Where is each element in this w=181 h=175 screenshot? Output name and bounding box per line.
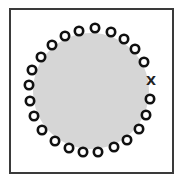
bead-icon (61, 32, 69, 40)
bead-icon (110, 143, 118, 151)
bead-icon (135, 125, 143, 133)
bead-icon (107, 28, 115, 36)
bead-icon (123, 136, 131, 144)
bead-icon (37, 53, 45, 61)
bead-icon (26, 97, 34, 105)
bead-icon (131, 45, 139, 53)
bead-icon (94, 148, 102, 156)
bead-icon (65, 144, 73, 152)
bead-icon (140, 58, 148, 66)
bead-icon (75, 27, 83, 35)
bead-icon (48, 41, 56, 49)
bead-icon (91, 24, 99, 32)
bead-icon (25, 81, 33, 89)
bead-icon (146, 95, 154, 103)
bead-icon (30, 112, 38, 120)
x-marker: X (146, 74, 156, 87)
bead-icon (120, 35, 128, 43)
bead-icon (51, 137, 59, 145)
bead-icon (28, 66, 36, 74)
bead-icon (142, 111, 150, 119)
bead-icon (38, 126, 46, 134)
bead-icon (79, 148, 87, 156)
